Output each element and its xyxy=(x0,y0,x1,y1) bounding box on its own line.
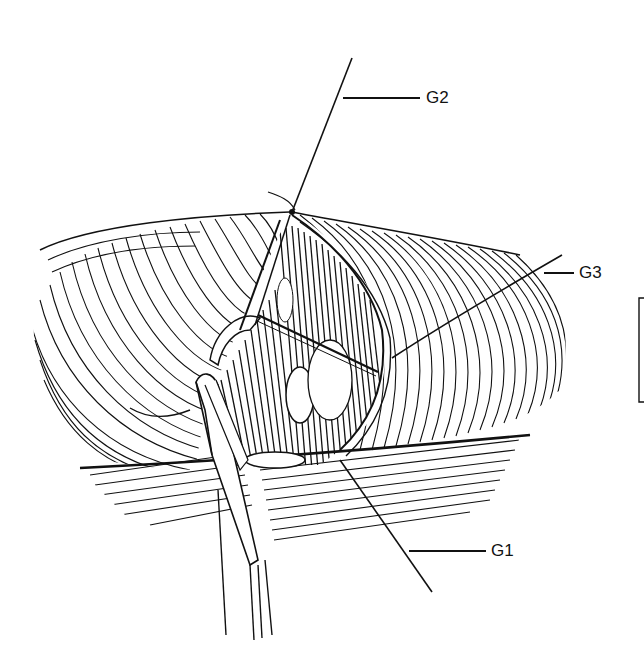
label-g2: G2 xyxy=(426,89,449,106)
left-tissue-flap xyxy=(30,214,280,478)
suture-thread-g1 xyxy=(340,460,432,592)
forceps-icon xyxy=(196,374,272,640)
g2-leader-line xyxy=(343,97,420,99)
figure-canvas: G2 G3 G1 xyxy=(0,0,644,665)
g1-leader-line xyxy=(409,550,486,552)
suture-thread-g2 xyxy=(292,58,352,212)
scale-bar xyxy=(639,298,644,402)
surgical-illustration xyxy=(0,0,644,665)
label-g1: G1 xyxy=(491,542,514,559)
g3-leader-line xyxy=(544,272,574,274)
label-g3: G3 xyxy=(579,264,602,281)
